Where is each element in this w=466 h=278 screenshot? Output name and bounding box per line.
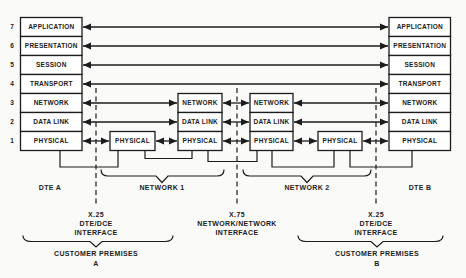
left-arrowhead-icon xyxy=(83,43,91,50)
right-arrowhead-icon xyxy=(101,138,109,145)
premises-b-brace xyxy=(298,236,443,248)
dte-a-stack: APPLICATION PRESENTATION SESSION TRANSPO… xyxy=(21,18,83,151)
customer-premises-b: CUSTOMER PREMISES B xyxy=(298,236,443,267)
network2-brace xyxy=(243,170,371,183)
medium-node1-node2 xyxy=(208,151,257,162)
x25-a-line2: DTE/DCE xyxy=(79,220,112,227)
premises-b-letter: B xyxy=(374,260,379,267)
layer-number-column: 7 6 5 4 3 2 1 xyxy=(10,23,14,144)
layer-number-6: 6 xyxy=(10,42,14,49)
x75-line2: NETWORK/NETWORK xyxy=(197,220,277,227)
dte-b-network-label: NETWORK xyxy=(402,99,437,106)
node1-network-label: NETWORK xyxy=(182,99,217,106)
left-arrowhead-icon xyxy=(156,138,164,145)
network2-node-stack: NETWORK DATA LINK PHYSICAL xyxy=(250,94,293,151)
customer-premises-a: CUSTOMER PREMISES A xyxy=(23,236,173,267)
application-peer-link xyxy=(83,24,388,31)
transport-peer-link xyxy=(83,81,388,88)
node1-physical-label: PHYSICAL xyxy=(183,137,218,144)
node1-datalink-label: DATA LINK xyxy=(182,118,218,125)
medium-dcea-node1 xyxy=(145,151,192,159)
x75-line3: INTERFACE xyxy=(216,229,259,236)
dte-a-datalink-label: DATA LINK xyxy=(33,118,69,125)
left-arrowhead-icon xyxy=(294,100,302,107)
left-arrowhead-icon xyxy=(294,138,302,145)
dte-a-session-label: SESSION xyxy=(36,61,67,68)
right-arrowhead-icon xyxy=(380,138,388,145)
layer-number-3: 3 xyxy=(10,99,14,106)
node2-physical-label: PHYSICAL xyxy=(254,137,289,144)
layer-number-2: 2 xyxy=(10,118,14,125)
physical-medium-links xyxy=(60,151,412,168)
left-arrowhead-icon xyxy=(223,119,231,126)
x25-b-line1: X.25 xyxy=(368,211,384,218)
network1-caption: NETWORK 1 xyxy=(139,184,184,191)
medium-dceb-dteb xyxy=(350,151,412,168)
x25-b-line3: INTERFACE xyxy=(355,229,398,236)
right-arrowhead-icon xyxy=(241,119,249,126)
datalink-hop-links xyxy=(83,119,388,126)
dce-a-physical-label: PHYSICAL xyxy=(115,137,150,144)
right-arrowhead-icon xyxy=(380,81,388,88)
right-arrowhead-icon xyxy=(380,100,388,107)
dce-b-physical-label: PHYSICAL xyxy=(323,137,358,144)
dte-b-presentation-label: PRESENTATION xyxy=(393,42,446,49)
presentation-peer-link xyxy=(83,43,388,50)
right-arrowhead-icon xyxy=(169,100,177,107)
osi-x25-x75-diagram: 7 6 5 4 3 2 1 APPLICATION PRESENTATION S… xyxy=(0,0,466,278)
premises-a-caption: CUSTOMER PREMISES xyxy=(54,250,138,257)
left-arrowhead-icon xyxy=(363,138,371,145)
premises-b-caption: CUSTOMER PREMISES xyxy=(335,250,419,257)
diagram-canvas: 7 6 5 4 3 2 1 APPLICATION PRESENTATION S… xyxy=(0,0,466,278)
right-arrowhead-icon xyxy=(169,138,177,145)
right-arrowhead-icon xyxy=(380,43,388,50)
dte-b-physical-label: PHYSICAL xyxy=(402,137,437,144)
dte-b-stack: APPLICATION PRESENTATION SESSION TRANSPO… xyxy=(389,18,451,151)
x25-a-interface-label: X.25 DTE/DCE INTERFACE xyxy=(75,211,118,236)
x75-interface-label: X.75 NETWORK/NETWORK INTERFACE xyxy=(197,211,277,236)
right-arrowhead-icon xyxy=(380,24,388,31)
right-arrowhead-icon xyxy=(309,138,317,145)
dte-a-caption: DTE A xyxy=(39,184,62,191)
left-arrowhead-icon xyxy=(83,24,91,31)
network-hop-links xyxy=(83,100,388,107)
left-arrowhead-icon xyxy=(83,100,91,107)
dte-a-physical-label: PHYSICAL xyxy=(34,137,69,144)
left-arrowhead-icon xyxy=(83,138,91,145)
right-arrowhead-icon xyxy=(241,138,249,145)
medium-dtea-dcea xyxy=(60,151,118,168)
left-arrowhead-icon xyxy=(223,100,231,107)
left-arrowhead-icon xyxy=(294,119,302,126)
network1-node-stack: NETWORK DATA LINK PHYSICAL xyxy=(178,94,222,151)
layer-number-5: 5 xyxy=(10,61,14,68)
right-arrowhead-icon xyxy=(380,62,388,69)
premises-a-brace xyxy=(23,236,173,248)
dte-a-application-label: APPLICATION xyxy=(28,23,74,30)
dce-a-physical: PHYSICAL xyxy=(110,132,155,151)
x75-line1: X.75 xyxy=(229,211,245,218)
dce-b-physical: PHYSICAL xyxy=(318,132,362,151)
right-arrowhead-icon xyxy=(380,119,388,126)
layer-number-1: 1 xyxy=(10,137,14,144)
dte-b-application-label: APPLICATION xyxy=(397,23,443,30)
left-arrowhead-icon xyxy=(223,138,231,145)
x25-b-line2: DTE/DCE xyxy=(359,220,392,227)
dte-a-transport-label: TRANSPORT xyxy=(30,80,73,87)
dte-b-session-label: SESSION xyxy=(404,61,435,68)
dte-b-transport-label: TRANSPORT xyxy=(398,80,441,87)
node2-datalink-label: DATA LINK xyxy=(253,118,289,125)
network2-caption: NETWORK 2 xyxy=(284,184,329,191)
premises-a-letter: A xyxy=(93,260,98,267)
dte-b-datalink-label: DATA LINK xyxy=(402,118,438,125)
dte-b-caption: DTE B xyxy=(409,184,432,191)
node2-network-label: NETWORK xyxy=(254,99,289,106)
right-arrowhead-icon xyxy=(241,100,249,107)
x25-b-interface-label: X.25 DTE/DCE INTERFACE xyxy=(355,211,398,236)
x25-a-line1: X.25 xyxy=(88,211,104,218)
layer-number-4: 4 xyxy=(10,80,14,87)
left-arrowhead-icon xyxy=(83,81,91,88)
right-arrowhead-icon xyxy=(169,119,177,126)
left-arrowhead-icon xyxy=(83,119,91,126)
dte-a-presentation-label: PRESENTATION xyxy=(25,42,78,49)
layer-number-7: 7 xyxy=(10,23,14,30)
